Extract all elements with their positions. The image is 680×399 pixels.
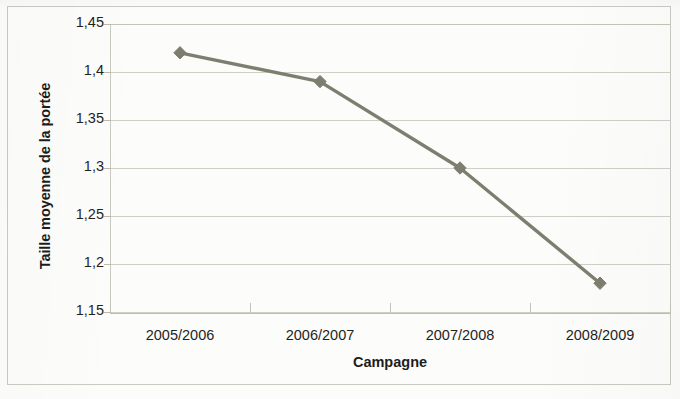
data-series-layer [0,0,680,399]
series-line [180,53,600,283]
y-axis-tick-mark [104,120,111,121]
chart-figure: Taille moyenne de la portée 1,451,41,351… [0,0,680,399]
y-axis-tick-mark [104,24,111,25]
data-point-marker [174,47,186,59]
x-axis-title: Campagne [110,354,670,370]
y-axis-tick-mark [104,216,111,217]
y-axis-tick-mark [104,312,111,313]
y-axis-tick-mark [104,72,111,73]
y-axis-tick-mark [104,168,111,169]
y-axis-tick-mark [104,264,111,265]
